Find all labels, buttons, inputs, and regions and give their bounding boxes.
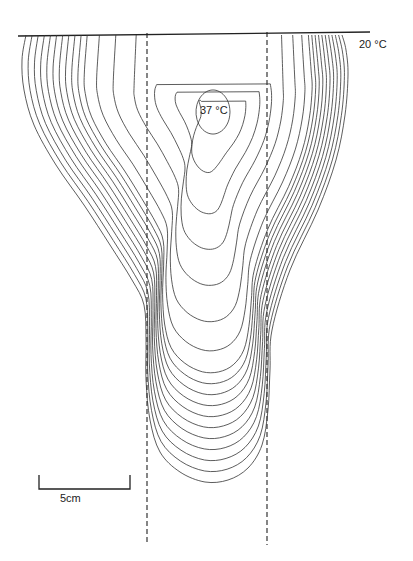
isotherm: [53, 35, 330, 428]
isotherm-20c: [22, 35, 348, 483]
isotherm-contours: [22, 35, 348, 483]
isotherm: [84, 35, 312, 373]
surface-line: [18, 32, 370, 36]
isotherm: [65, 35, 322, 406]
isotherm: [41, 35, 338, 450]
scale-bar: [39, 475, 130, 489]
isotherm-diagram: [0, 0, 413, 561]
boundary-temperature-label: 20 °C: [359, 38, 387, 50]
isotherm: [97, 35, 305, 351]
scale-bar-label: 5cm: [60, 492, 81, 504]
core-temperature-label: 37 °C: [200, 104, 228, 116]
isotherm: [113, 35, 295, 322]
